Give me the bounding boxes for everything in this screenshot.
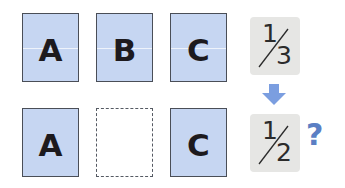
card-c-bottom: C — [170, 108, 227, 177]
card-letter: C — [187, 127, 210, 163]
empty-card-slot — [96, 108, 153, 177]
card-letter: B — [113, 32, 137, 68]
card-b-top: B — [96, 13, 153, 82]
fraction-denominator: 2 — [276, 138, 292, 167]
fraction-one-third: 1 3 — [250, 17, 300, 75]
fraction-slash — [250, 114, 300, 172]
card-a-bottom: A — [22, 108, 79, 177]
down-arrow-icon — [262, 84, 286, 106]
card-a-top: A — [22, 13, 79, 82]
card-c-top: C — [170, 13, 227, 82]
fraction-slash — [250, 17, 300, 75]
card-letter: A — [39, 127, 63, 163]
fraction-denominator: 3 — [276, 41, 292, 70]
card-letter: A — [39, 32, 63, 68]
question-mark: ? — [306, 117, 323, 152]
fraction-one-half: 1 2 — [250, 114, 300, 172]
card-letter: C — [187, 32, 210, 68]
